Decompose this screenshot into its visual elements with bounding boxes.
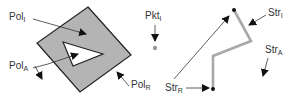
label-sub: I: [23, 16, 25, 23]
str-exterior-arrow: [263, 58, 268, 76]
label-str-r: StrR: [165, 83, 183, 94]
pol-exterior-arrow: [35, 66, 42, 79]
label-sub: A: [23, 65, 28, 72]
label-pol-a: PolA: [9, 61, 28, 72]
label-base: Pol: [9, 60, 23, 71]
linestring-shape: [213, 10, 251, 89]
label-base: Str: [165, 82, 178, 93]
label-base: Str: [265, 44, 278, 55]
label-base: Str: [268, 7, 281, 18]
label-pol-r: PolR: [131, 80, 151, 91]
label-base: Pkt: [145, 10, 159, 21]
str-interior-arrow: [249, 15, 266, 25]
linestring-start-node: [211, 87, 215, 91]
str-boundary-arrow-diag: [174, 16, 229, 79]
label-sub: R: [178, 87, 183, 94]
label-str-i: StrI: [268, 8, 283, 19]
label-sub: I: [281, 12, 283, 19]
label-pkt-i: PktI: [145, 11, 161, 22]
pol-boundary-arrow: [117, 72, 129, 86]
label-pol-i: PolI: [9, 12, 25, 23]
label-base: Pol: [9, 11, 23, 22]
label-sub: R: [145, 84, 150, 91]
label-sub: A: [278, 49, 283, 56]
label-sub: I: [159, 15, 161, 22]
label-base: Pol: [131, 79, 145, 90]
label-str-a: StrA: [265, 45, 282, 56]
point-marker: [153, 46, 157, 50]
polygon-shape: [37, 7, 131, 92]
linestring-end-node: [232, 8, 236, 12]
